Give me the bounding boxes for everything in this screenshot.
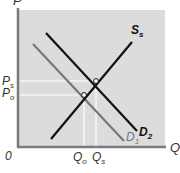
quantity-label-qo: Qo	[73, 150, 87, 166]
quantity-label-qs: Qs	[92, 150, 105, 166]
equilibrium-point-o	[82, 93, 87, 98]
origin-label: 0	[5, 149, 12, 163]
x-axis-label: Q	[170, 140, 180, 155]
y-axis-label: P	[13, 0, 22, 8]
supply-demand-diagram: P Q 0 Ps Po Qo Qs Ss D2 D1	[0, 0, 180, 173]
equilibrium-point-s	[94, 79, 99, 84]
